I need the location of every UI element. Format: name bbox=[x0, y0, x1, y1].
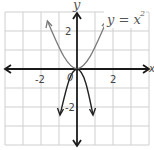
y-tick-pos2: 2 bbox=[65, 26, 71, 37]
coordinate-plane: y x -2 2 2 -2 0 y = x 2 bbox=[0, 0, 154, 150]
x-axis-label: x bbox=[148, 63, 154, 74]
x-tick-neg2: -2 bbox=[35, 74, 45, 85]
y-axis-label: y bbox=[72, 0, 81, 12]
y-tick-neg2: -2 bbox=[65, 102, 75, 113]
equation-exponent: 2 bbox=[139, 9, 145, 18]
x-tick-pos2: 2 bbox=[110, 74, 116, 85]
origin-label: 0 bbox=[67, 72, 73, 83]
equation-label: y = x bbox=[106, 12, 142, 27]
